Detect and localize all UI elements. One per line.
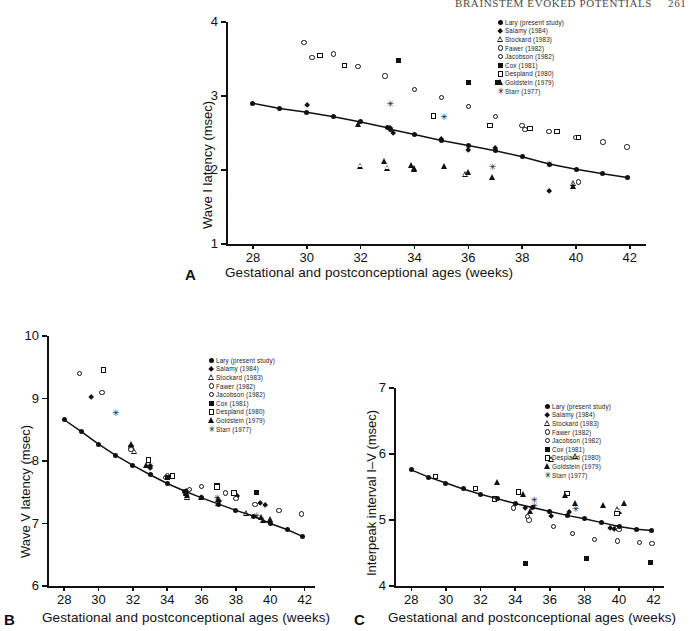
legend-symbol-filled-circle-icon bbox=[496, 18, 505, 27]
marker-filled-square bbox=[498, 63, 503, 68]
x-tick bbox=[63, 586, 65, 591]
legend-symbol-filled-diamond-icon bbox=[207, 365, 216, 374]
legend-label: Lary (present study) bbox=[552, 403, 611, 410]
x-axis-line bbox=[47, 586, 315, 588]
x-tick-label: 34 bbox=[398, 250, 430, 265]
x-tick bbox=[584, 586, 586, 591]
legend-symbol-filled-square-icon bbox=[207, 399, 216, 408]
legend-item-starr: ✳Starr (1977) bbox=[543, 471, 611, 480]
marker-filled-circle bbox=[182, 489, 187, 494]
marker-filled-circle bbox=[547, 162, 552, 167]
marker-filled-circle bbox=[565, 513, 570, 518]
y-tick-label: 6 bbox=[362, 446, 386, 461]
marker-open-circle bbox=[209, 383, 214, 388]
x-axis-line bbox=[226, 244, 646, 246]
legend-item-stockard: Stockard (1983) bbox=[496, 35, 564, 44]
legend-item-goldstein: Goldstein (1979) bbox=[207, 416, 275, 425]
x-tick bbox=[201, 586, 203, 591]
panel-c-x-axis-label: Gestational and postconceptional ages (w… bbox=[388, 610, 676, 625]
legend-symbol-open-triangle-icon bbox=[496, 35, 505, 44]
legend-item-cox: Cox (1981) bbox=[496, 61, 564, 70]
legend-label: Despland (1980) bbox=[505, 70, 554, 77]
x-tick bbox=[132, 586, 134, 591]
legend-label: Starr (1977) bbox=[216, 426, 251, 433]
legend-item-fawer: Fawer (1982) bbox=[496, 44, 564, 53]
legend-item-despland: Despland (1980) bbox=[207, 408, 275, 417]
marker-open-triangle bbox=[497, 36, 503, 42]
x-tick bbox=[575, 244, 577, 249]
y-tick-label: 8 bbox=[15, 453, 39, 468]
x-tick-label: 40 bbox=[560, 250, 592, 265]
x-tick bbox=[306, 244, 308, 249]
marker-filled-circle bbox=[268, 521, 273, 526]
marker-filled-circle bbox=[412, 132, 417, 137]
y-tick-label: 4 bbox=[194, 14, 218, 29]
marker-filled-circle bbox=[216, 502, 221, 507]
panel-a-letter: A bbox=[185, 266, 196, 283]
x-tick bbox=[468, 244, 470, 249]
marker-filled-square bbox=[545, 447, 550, 452]
marker-filled-diamond bbox=[208, 366, 214, 372]
legend-label: Salamy (1984) bbox=[552, 411, 595, 418]
x-tick-label: 36 bbox=[452, 250, 484, 265]
marker-filled-circle bbox=[148, 472, 153, 477]
legend-item-jacobson: Jacobson (1982) bbox=[207, 390, 275, 399]
legend-label: Stockard (1983) bbox=[505, 36, 552, 43]
x-tick-label: 32 bbox=[117, 592, 149, 607]
panel-b-letter: B bbox=[4, 611, 15, 628]
x-tick-label: 42 bbox=[289, 592, 321, 607]
legend-label: Jacobson (1982) bbox=[552, 437, 601, 444]
panel-c-y-axis-label: Interpeak interval I–V (msec) bbox=[364, 410, 379, 576]
legend-item-fawer: Fawer (1982) bbox=[543, 428, 611, 437]
legend-item-stockard: Stockard (1983) bbox=[543, 419, 611, 428]
legend-item-despland: Despland (1980) bbox=[496, 70, 564, 79]
marker-filled-circle bbox=[530, 505, 535, 510]
x-tick-label: 30 bbox=[291, 250, 323, 265]
x-tick bbox=[360, 244, 362, 249]
panel-c: Interpeak interval I–V (msec) C Gestatio… bbox=[350, 330, 699, 631]
marker-open-triangle bbox=[208, 374, 214, 380]
marker-filled-circle bbox=[209, 358, 214, 363]
figure-page: BRAINSTEM EVOKED POTENTIALS261 Wave I la… bbox=[0, 0, 699, 631]
legend-label: Stockard (1983) bbox=[216, 374, 263, 381]
y-tick-label: 7 bbox=[362, 380, 386, 395]
x-tick bbox=[235, 586, 237, 591]
legend-label: Stockard (1983) bbox=[552, 420, 599, 427]
x-tick bbox=[166, 586, 168, 591]
legend-item-despland: Despland (1980) bbox=[543, 454, 611, 463]
x-tick-label: 40 bbox=[254, 592, 286, 607]
legend-item-cox: Cox (1981) bbox=[207, 399, 275, 408]
legend-label: Jacobson (1982) bbox=[216, 391, 265, 398]
marker-filled-circle bbox=[439, 138, 444, 143]
legend-label: Despland (1980) bbox=[552, 454, 601, 461]
marker-star: ✳ bbox=[496, 87, 505, 94]
marker-filled-circle bbox=[251, 514, 256, 519]
legend-item-starr: ✳Starr (1977) bbox=[207, 425, 275, 434]
marker-filled-triangle bbox=[208, 417, 214, 423]
legend-label: Fawer (1982) bbox=[505, 45, 544, 52]
legend-symbol-filled-square-icon bbox=[543, 445, 552, 454]
y-tick-label: 5 bbox=[362, 512, 386, 527]
panel-b-legend: Lary (present study)Salamy (1984)Stockar… bbox=[207, 356, 275, 433]
legend-label: Salamy (1984) bbox=[216, 365, 259, 372]
legend-symbol-star-icon: ✳ bbox=[543, 471, 552, 480]
legend-label: Lary (present study) bbox=[505, 19, 564, 26]
legend-label: Cox (1981) bbox=[216, 400, 249, 407]
marker-filled-circle bbox=[165, 481, 170, 486]
x-tick-label: 28 bbox=[395, 592, 427, 607]
x-tick-label: 28 bbox=[237, 250, 269, 265]
legend-item-stockard: Stockard (1983) bbox=[207, 373, 275, 382]
legend-item-cox: Cox (1981) bbox=[543, 445, 611, 454]
marker-star: ✳ bbox=[543, 471, 552, 478]
marker-open-square bbox=[498, 71, 504, 77]
legend-item-lary: Lary (present study) bbox=[207, 356, 275, 365]
marker-filled-circle bbox=[634, 527, 639, 532]
panel-b-x-axis-label: Gestational and postconceptional ages (w… bbox=[42, 610, 330, 625]
legend-item-goldstein: Goldstein (1979) bbox=[543, 462, 611, 471]
legend-label: Starr (1977) bbox=[552, 472, 587, 479]
y-tick-label: 2 bbox=[194, 162, 218, 177]
legend-symbol-open-triangle-icon bbox=[207, 373, 216, 382]
marker-open-circle bbox=[498, 45, 503, 50]
legend-symbol-open-circle-icon bbox=[207, 382, 216, 391]
panel-a-plot-area: 12342830323436384042✳✳✳✳ bbox=[226, 22, 646, 244]
